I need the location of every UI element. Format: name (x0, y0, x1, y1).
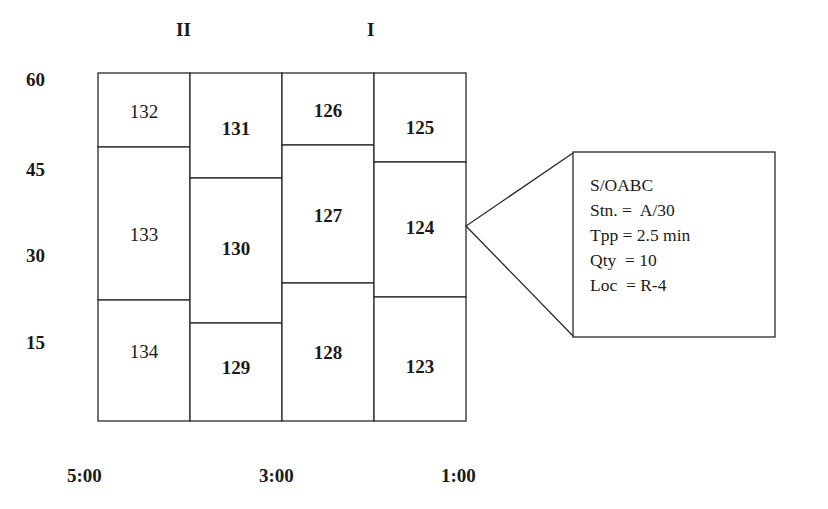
callout-line-part: S/OABC (590, 173, 690, 198)
slot-label-123: 123 (406, 356, 435, 377)
slot-label-130: 130 (222, 238, 251, 259)
slot-label-124: 124 (406, 217, 435, 238)
callout-text: S/OABC Stn. = A/30 Tpp = 2.5 min Qty = 1… (590, 173, 690, 298)
slot-grid: 132133134131130129126127128125124123 (98, 73, 466, 421)
callout-line-station: Stn. = A/30 (590, 198, 690, 223)
slot-label-132: 132 (130, 101, 159, 122)
slot-label-134: 134 (130, 341, 159, 362)
slot-label-128: 128 (314, 342, 343, 363)
callout-line-loc: Loc = R-4 (590, 273, 690, 298)
slot-label-129: 129 (222, 357, 251, 378)
slot-label-126: 126 (314, 100, 343, 121)
callout-line-tpp: Tpp = 2.5 min (590, 223, 690, 248)
slot-label-131: 131 (222, 118, 251, 139)
slot-label-125: 125 (406, 117, 435, 138)
callout-pointer (466, 153, 573, 336)
slot-label-133: 133 (130, 224, 159, 245)
slot-grid-diagram: 132133134131130129126127128125124123 (0, 0, 828, 509)
slot-label-127: 127 (314, 205, 343, 226)
callout-line-qty: Qty = 10 (590, 248, 690, 273)
